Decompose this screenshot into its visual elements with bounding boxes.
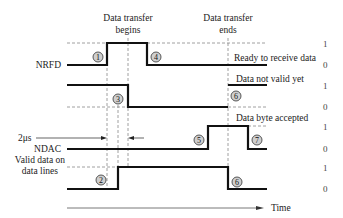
- annotation-data-byte-accepted: Data byte accepted: [236, 113, 309, 123]
- marker-1: 1: [93, 52, 103, 62]
- transfer-ends-label-line2: ends: [219, 25, 237, 35]
- marker-5: 5: [194, 135, 204, 145]
- level-nrfd-low: 0: [323, 60, 328, 70]
- marker-4: 4: [151, 52, 161, 62]
- signal-label-data-line2: data lines: [22, 166, 58, 176]
- svg-text:1: 1: [96, 53, 100, 62]
- level-dav-low: 0: [323, 102, 328, 112]
- marker-2: 2: [96, 175, 106, 185]
- level-ndac-high: 1: [323, 122, 328, 132]
- signal-label-data-line1: Valid data on: [15, 155, 65, 165]
- transfer-begins-label-line2: begins: [116, 25, 141, 35]
- svg-text:4: 4: [154, 53, 158, 62]
- level-data-low: 0: [323, 184, 328, 194]
- level-ndac-low: 0: [323, 144, 328, 154]
- annotation-data-not-valid: Data not valid yet: [236, 74, 304, 84]
- timing-2us-label: 2μs: [18, 133, 32, 143]
- transfer-ends-label-line1: Data transfer: [203, 13, 253, 23]
- handshake-timing-diagram: Data transfer begins Data transfer ends …: [0, 0, 343, 218]
- annotation-ready-to-receive: Ready to receive data: [234, 53, 317, 63]
- timing-arrowhead-right-icon: [128, 136, 134, 140]
- timing-arrowhead-left-icon: [101, 136, 107, 140]
- signal-label-nrfd: NRFD: [36, 60, 61, 70]
- time-arrow-icon: [256, 206, 264, 210]
- svg-text:6: 6: [235, 178, 239, 187]
- signal-label-ndac: NDAC: [34, 144, 61, 154]
- svg-text:3: 3: [116, 95, 120, 104]
- marker-6-data: 6: [232, 177, 242, 187]
- svg-text:7: 7: [255, 136, 259, 145]
- marker-6-dav: 6: [231, 91, 241, 101]
- svg-text:2: 2: [99, 176, 103, 185]
- svg-text:5: 5: [197, 136, 201, 145]
- time-axis-label: Time: [271, 203, 291, 213]
- marker-3: 3: [113, 94, 123, 104]
- level-data-high: 1: [323, 163, 328, 173]
- marker-7: 7: [252, 135, 262, 145]
- dav-waveform-left: [67, 85, 228, 107]
- transfer-begins-label-line1: Data transfer: [103, 13, 153, 23]
- svg-text:6: 6: [234, 92, 238, 101]
- level-nrfd-high: 1: [323, 39, 328, 49]
- ndac-waveform: [67, 126, 267, 149]
- level-dav-high: 1: [323, 81, 328, 91]
